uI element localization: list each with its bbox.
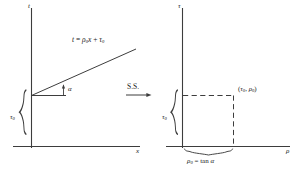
right-tau0-label: τ0 xyxy=(162,114,167,121)
rho0-brace xyxy=(185,149,233,155)
angle-alpha-label: α xyxy=(68,86,72,93)
left-panel-axes xyxy=(13,8,140,148)
line-equation-label: t = ρ0x + τ0 xyxy=(72,36,104,44)
paren-close: ) xyxy=(254,85,256,93)
transform-label: S.S. xyxy=(127,83,139,91)
left-x-axis-label: x xyxy=(136,148,139,155)
left-tau0-brace xyxy=(20,90,26,134)
right-y-axis-label: τ xyxy=(178,3,181,10)
right-tau0-sub: 0 xyxy=(165,116,167,121)
left-tau0-label: τ0 xyxy=(10,114,15,121)
point-coordinate-label: (τ0, ρ0) xyxy=(238,86,257,93)
rho0-angle: α xyxy=(210,157,214,165)
rho0-equation-label: ρ0 = tan α xyxy=(187,158,214,165)
tan-function: tan xyxy=(200,157,209,165)
right-x-axis-label: ρ xyxy=(286,148,289,155)
transform-arrow xyxy=(126,93,152,97)
right-tau0-brace xyxy=(171,90,177,134)
left-y-axis-label: t xyxy=(28,3,30,10)
right-panel-axes xyxy=(166,8,290,148)
angle-arrow xyxy=(62,84,65,95)
slanted-line xyxy=(32,49,137,96)
left-tau0-sub: 0 xyxy=(13,116,15,121)
equation-intercept-sub: 0 xyxy=(102,39,104,44)
